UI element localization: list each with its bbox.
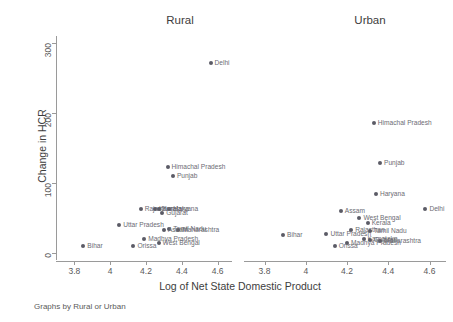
y-axis-line bbox=[56, 36, 57, 260]
data-point[interactable] bbox=[117, 223, 121, 227]
x-tick-label: 3.8 bbox=[251, 266, 279, 276]
x-tick-mark bbox=[74, 261, 75, 265]
data-point-label: Himachal Pradesh bbox=[172, 164, 226, 171]
data-point-label: Uttar Pradesh bbox=[123, 222, 164, 229]
data-point-label: Punjab bbox=[384, 160, 405, 167]
x-axis-line-rural bbox=[56, 261, 232, 262]
data-point[interactable] bbox=[324, 232, 328, 236]
data-point[interactable] bbox=[162, 228, 166, 232]
y-tick-label: 0 bbox=[43, 253, 53, 303]
data-point[interactable] bbox=[281, 233, 285, 237]
data-point[interactable] bbox=[81, 244, 85, 248]
data-point-label: Tamil Nadu bbox=[374, 228, 407, 235]
y-tick-label: 200 bbox=[43, 113, 53, 163]
data-point[interactable] bbox=[366, 221, 370, 225]
data-point-label: Orissa bbox=[137, 243, 156, 250]
data-point-label: Delhi bbox=[215, 60, 230, 67]
data-point[interactable] bbox=[157, 241, 161, 245]
data-point-label: West Bengal bbox=[163, 240, 200, 247]
y-tick-label: 300 bbox=[43, 43, 53, 93]
data-point[interactable] bbox=[131, 244, 135, 248]
data-point-label: Bihar bbox=[287, 232, 302, 239]
panel-title-urban: Urban bbox=[310, 14, 430, 26]
x-tick-mark bbox=[218, 261, 219, 265]
data-point[interactable] bbox=[209, 61, 213, 65]
data-point[interactable] bbox=[171, 174, 175, 178]
data-point-label: Bihar bbox=[87, 243, 102, 250]
data-point-label: Punjab bbox=[177, 173, 198, 180]
x-tick-label: 4.6 bbox=[416, 266, 444, 276]
x-tick-label: 4.2 bbox=[132, 266, 160, 276]
data-point[interactable] bbox=[372, 121, 376, 125]
data-point[interactable] bbox=[423, 207, 427, 211]
x-axis-line-urban bbox=[244, 261, 446, 262]
data-point-label: Assam bbox=[168, 227, 188, 234]
x-tick-mark bbox=[182, 261, 183, 265]
scatter-plot-figure: Rural Urban Change in HCR Log of Net Sta… bbox=[0, 0, 453, 322]
panel-title-rural: Rural bbox=[120, 14, 240, 26]
data-point[interactable] bbox=[160, 211, 164, 215]
data-point[interactable] bbox=[357, 216, 361, 220]
x-tick-mark bbox=[146, 261, 147, 265]
x-tick-mark bbox=[265, 261, 266, 265]
data-point-label: Delhi bbox=[429, 206, 444, 213]
x-tick-label: 4 bbox=[96, 266, 124, 276]
x-tick-label: 4.2 bbox=[333, 266, 361, 276]
data-point-label: Gujarat bbox=[166, 210, 188, 217]
facet-note: Graphs by Rural or Urban bbox=[34, 302, 126, 311]
data-point-label: Orissa bbox=[339, 243, 358, 250]
data-point[interactable] bbox=[166, 165, 170, 169]
y-tick-label: 100 bbox=[43, 183, 53, 233]
x-tick-label: 4.4 bbox=[168, 266, 196, 276]
x-tick-mark bbox=[388, 261, 389, 265]
x-tick-mark bbox=[347, 261, 348, 265]
x-tick-label: 3.8 bbox=[60, 266, 88, 276]
data-point[interactable] bbox=[378, 161, 382, 165]
data-point-label: Himachal Pradesh bbox=[378, 120, 432, 127]
data-point-label: Haryana bbox=[380, 191, 405, 198]
data-point[interactable] bbox=[139, 207, 143, 211]
x-tick-mark bbox=[110, 261, 111, 265]
data-point-label: Assam bbox=[345, 208, 365, 215]
data-point[interactable] bbox=[333, 244, 337, 248]
x-tick-mark bbox=[430, 261, 431, 265]
x-tick-label: 4.6 bbox=[204, 266, 232, 276]
data-point[interactable] bbox=[374, 192, 378, 196]
x-tick-mark bbox=[306, 261, 307, 265]
x-tick-label: 4 bbox=[292, 266, 320, 276]
data-point[interactable] bbox=[142, 237, 146, 241]
x-axis-title: Log of Net State Domestic Product bbox=[80, 280, 400, 292]
data-point-label: Madhya Pradesh bbox=[351, 240, 401, 247]
data-point[interactable] bbox=[339, 209, 343, 213]
x-tick-label: 4.4 bbox=[374, 266, 402, 276]
